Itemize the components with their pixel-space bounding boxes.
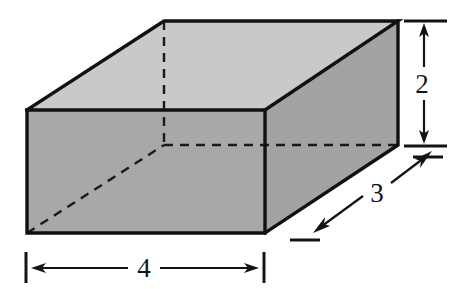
rectangular-prism-figure: 2 3 4 xyxy=(0,0,463,289)
figure-container: 2 3 4 xyxy=(0,0,463,289)
height-dimension-label: 2 xyxy=(415,69,429,99)
width-dimension-label: 4 xyxy=(137,253,151,283)
depth-dimension-label: 3 xyxy=(370,178,384,208)
front-face xyxy=(27,110,265,233)
